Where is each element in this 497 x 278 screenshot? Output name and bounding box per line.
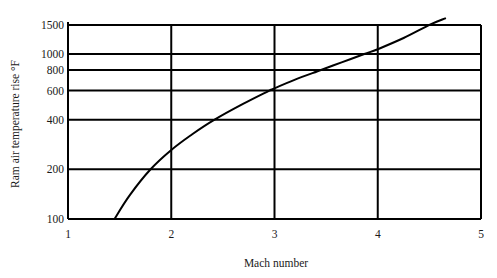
x-axis-ticks: 12345 xyxy=(65,228,484,240)
y-tick-400: 400 xyxy=(47,114,65,126)
x-tick-2: 2 xyxy=(168,228,174,240)
y-tick-600: 600 xyxy=(47,85,65,97)
x-axis-label: Mach number xyxy=(244,257,308,269)
y-tick-800: 800 xyxy=(47,64,65,76)
x-tick-5: 5 xyxy=(478,228,484,240)
y-tick-100: 100 xyxy=(47,213,65,225)
grid-lines xyxy=(68,22,481,219)
y-tick-200: 200 xyxy=(47,163,65,175)
x-tick-1: 1 xyxy=(65,228,71,240)
y-axis-label: Ram air temperature rise °F xyxy=(9,60,22,188)
y-axis-ticks: 10020040060080010001500 xyxy=(41,19,64,225)
data-curve xyxy=(115,18,446,219)
x-tick-4: 4 xyxy=(375,228,381,240)
y-tick-1500: 1500 xyxy=(41,19,64,31)
chart: 12345 10020040060080010001500 Mach numbe… xyxy=(0,0,497,278)
x-tick-3: 3 xyxy=(272,228,278,240)
y-tick-1000: 1000 xyxy=(41,48,64,60)
